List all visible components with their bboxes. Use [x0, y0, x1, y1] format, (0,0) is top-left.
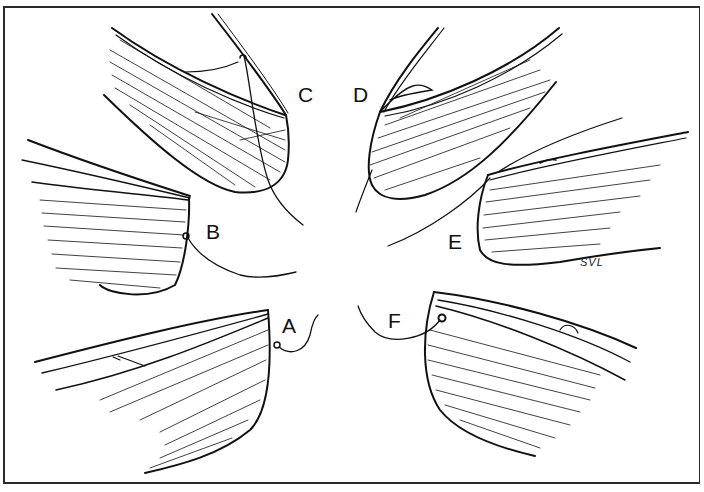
artist-signature: SVL — [580, 256, 604, 268]
canoe-end-b — [22, 140, 296, 294]
label-f: F — [388, 310, 401, 331]
label-b: B — [206, 221, 220, 242]
label-e: E — [448, 231, 462, 252]
label-d: D — [353, 84, 368, 105]
label-c: C — [298, 84, 313, 105]
canoe-illustration — [0, 0, 704, 492]
canoe-end-a — [35, 310, 318, 473]
canoe-end-d — [356, 28, 562, 212]
label-a: A — [282, 315, 296, 336]
